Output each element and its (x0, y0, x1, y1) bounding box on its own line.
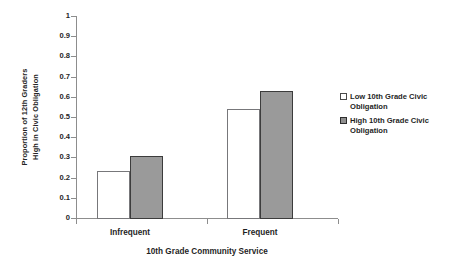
x-tick-mark (76, 219, 77, 224)
legend: Low 10th Grade Civic Obligation High 10t… (340, 92, 462, 140)
y-tick-label-0_3: 0.3 (46, 153, 70, 161)
y-tick-label-0_4: 0.4 (46, 133, 70, 141)
y-tick-label-0_2: 0.2 (46, 174, 70, 182)
bar-frequent-high (260, 91, 293, 219)
legend-label-high: High 10th Grade Civic Obligation (350, 116, 458, 135)
y-axis-title-line-1: Proportion of 12th Graders (20, 68, 31, 165)
legend-label-low: Low 10th Grade Civic Obligation (350, 92, 458, 111)
x-axis-title: 10th Grade Community Service (76, 247, 338, 256)
y-tick-label-0_7: 0.7 (46, 73, 70, 81)
x-tick-mark (338, 219, 339, 224)
legend-item-high: High 10th Grade Civic Obligation (340, 116, 462, 135)
legend-swatch-low-icon (340, 93, 347, 100)
x-tick-mark (207, 219, 208, 224)
y-axis-tick-labels: 1 0.9 0.8 0.7 0.6 0.5 0.4 0.3 0.2 0.1 0 (44, 0, 70, 269)
bar-infrequent-low (97, 171, 130, 219)
x-category-label-frequent: Frequent (242, 228, 277, 237)
y-axis-title-line-2: High in Civic Obligation (30, 68, 41, 165)
y-tick-label-0_8: 0.8 (46, 52, 70, 60)
bar-frequent-low (227, 109, 260, 219)
bar-chart: Proportion of 12th Graders High in Civic… (0, 0, 467, 269)
legend-item-low: Low 10th Grade Civic Obligation (340, 92, 462, 111)
y-tick-label-0_9: 0.9 (46, 32, 70, 40)
y-axis-title: Proportion of 12th Graders High in Civic… (18, 16, 42, 218)
legend-swatch-high-icon (340, 117, 347, 124)
y-tick-label-0_6: 0.6 (46, 93, 70, 101)
y-tick-label-0_5: 0.5 (46, 113, 70, 121)
y-tick-label-0_1: 0.1 (46, 194, 70, 202)
y-tick-label-0: 0 (46, 214, 70, 222)
bar-infrequent-high (130, 156, 163, 219)
x-category-label-infrequent: Infrequent (110, 228, 150, 237)
y-tick-label-1_0: 1 (46, 12, 70, 20)
y-axis-line (76, 16, 77, 219)
